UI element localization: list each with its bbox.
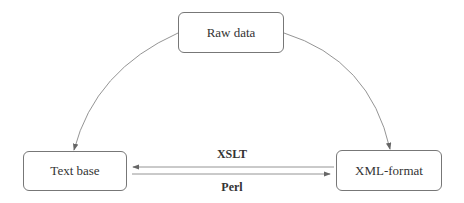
edge-label-xslt: XSLT [217,147,247,162]
node-xml-format: XML-format [336,150,442,191]
node-raw-data-label: Raw data [207,25,256,41]
node-raw-data: Raw data [178,12,284,53]
edge-raw-to-xml [284,33,390,149]
node-xml-format-label: XML-format [355,163,423,179]
node-text-base-label: Text base [50,163,99,179]
node-text-base: Text base [23,151,127,191]
edge-label-perl: Perl [221,180,242,195]
edge-raw-to-text [74,33,178,150]
